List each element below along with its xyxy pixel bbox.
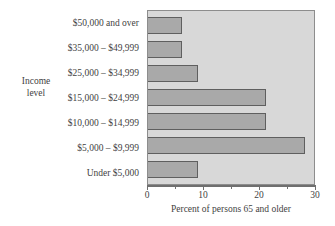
x-axis-tick-label: 0 — [145, 190, 150, 200]
category-label: $35,000 – $49,999 — [36, 35, 144, 60]
bar-slot — [148, 61, 314, 85]
x-axis-tick-label: 20 — [254, 190, 264, 200]
x-axis-title: Percent of persons 65 and older — [147, 204, 315, 214]
bar — [148, 65, 198, 82]
bar — [148, 89, 266, 106]
x-axis-tick-label: 30 — [310, 190, 320, 200]
category-label: $5,000 – $9,999 — [36, 135, 144, 160]
bar-slot — [148, 85, 314, 109]
bar-chart-figure: Income level $50,000 and over$35,000 – $… — [0, 0, 335, 226]
bar-slot — [148, 157, 314, 181]
bar — [148, 17, 182, 34]
bar — [148, 113, 266, 130]
x-axis-tick — [231, 185, 232, 189]
bars-layer — [148, 11, 314, 184]
x-axis-tick — [287, 185, 288, 189]
category-label: $25,000 – $34,999 — [36, 60, 144, 85]
x-axis-tick-label: 10 — [198, 190, 208, 200]
category-axis-labels: $50,000 and over$35,000 – $49,999$25,000… — [36, 10, 144, 185]
plot-panel — [147, 10, 315, 185]
bar — [148, 161, 198, 178]
bar-slot — [148, 133, 314, 157]
bar-slot — [148, 109, 314, 133]
category-label: $50,000 and over — [36, 10, 144, 35]
x-axis-tick — [175, 185, 176, 189]
category-label: $10,000 – $14,999 — [36, 110, 144, 135]
category-label: $15,000 – $24,999 — [36, 85, 144, 110]
bar-slot — [148, 37, 314, 61]
bar — [148, 41, 182, 58]
bar-slot — [148, 13, 314, 37]
category-label: Under $5,000 — [36, 160, 144, 185]
bar — [148, 137, 305, 154]
